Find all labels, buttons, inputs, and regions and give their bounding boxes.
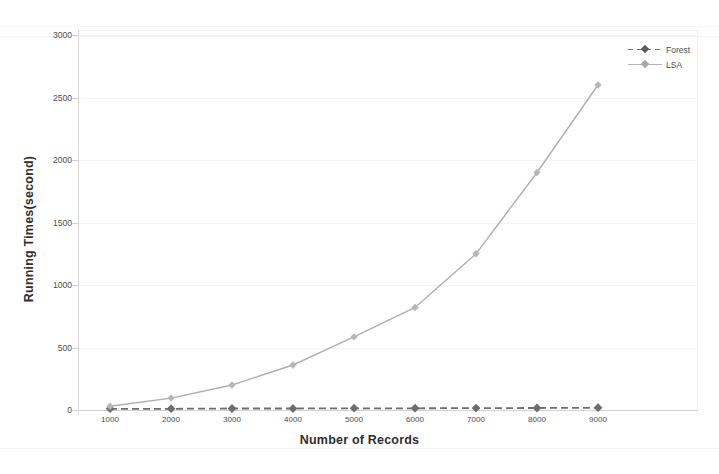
data-point-forest-3000: [228, 404, 237, 413]
data-series-layer: [0, 0, 719, 474]
data-point-forest-7000: [472, 404, 481, 413]
data-point-forest-5000: [350, 404, 359, 413]
data-point-forest-2000: [167, 404, 176, 413]
legend-key-forest-icon: [628, 44, 662, 55]
data-point-forest-9000: [594, 403, 603, 412]
chart-root: 050010001500200025003000 100020003000400…: [0, 0, 719, 474]
data-point-forest-6000: [411, 404, 420, 413]
data-point-lsa-4000: [289, 361, 296, 368]
data-point-forest-8000: [533, 404, 542, 413]
y-axis-title: Running Times(second): [22, 134, 36, 324]
data-point-forest-4000: [289, 404, 298, 413]
legend-item-forest[interactable]: Forest: [628, 42, 714, 57]
series-line-lsa: [110, 85, 598, 406]
legend-key-lsa-icon: [628, 59, 662, 70]
data-point-lsa-2000: [167, 394, 174, 401]
legend-label-lsa: LSA: [666, 60, 682, 70]
legend: Forest LSA: [628, 42, 714, 72]
legend-label-forest: Forest: [666, 45, 690, 55]
x-axis-title: Number of Records: [0, 433, 719, 447]
data-point-lsa-5000: [350, 333, 357, 340]
data-point-lsa-3000: [228, 381, 235, 388]
legend-item-lsa[interactable]: LSA: [628, 57, 714, 72]
